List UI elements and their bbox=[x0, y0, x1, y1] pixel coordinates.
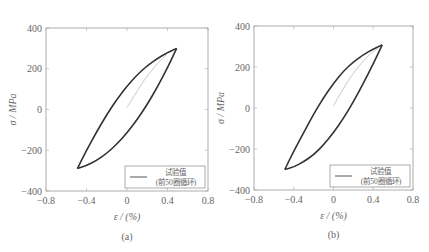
x-tick-label: 0.4 bbox=[367, 194, 380, 205]
panel-caption: (a) bbox=[121, 231, 132, 243]
hysteresis-loop-lower-line bbox=[285, 45, 382, 170]
y-axis-label: σ / MPa bbox=[7, 93, 18, 125]
x-tick-label: 0 bbox=[125, 195, 130, 206]
x-axis-label: ε / (%) bbox=[320, 210, 347, 222]
x-axis-label: ε / (%) bbox=[114, 211, 141, 223]
x-tick-label: 0.8 bbox=[202, 195, 215, 206]
panel-caption: (b) bbox=[328, 229, 340, 241]
x-tick-label: −0.8 bbox=[37, 195, 55, 206]
y-tick-label: 200 bbox=[27, 63, 42, 74]
legend-entry-label: 试验值 bbox=[165, 167, 187, 177]
legend-entry-sublabel: (前50圈循环) bbox=[361, 176, 402, 186]
y-tick-label: 0 bbox=[245, 103, 250, 114]
x-tick-label: −0.4 bbox=[77, 195, 95, 206]
y-tick-label: −200 bbox=[21, 145, 42, 156]
hysteresis-loop-lower-line bbox=[77, 48, 176, 168]
hysteresis-loop-upper-line bbox=[77, 48, 176, 168]
y-tick-label: 400 bbox=[235, 21, 250, 32]
x-tick-label: −0.4 bbox=[285, 194, 303, 205]
x-tick-label: 0.8 bbox=[407, 194, 420, 205]
y-tick-label: 0 bbox=[37, 104, 42, 115]
legend-entry-sublabel: (前50圈循环) bbox=[156, 177, 197, 187]
x-tick-label: 0 bbox=[331, 194, 336, 205]
chart-a: 4002000−200−400−0.8−0.400.40.8ε / (%)σ /… bbox=[7, 23, 214, 244]
x-tick-label: 0.4 bbox=[161, 195, 174, 206]
x-tick-label: −0.8 bbox=[245, 194, 263, 205]
chart-b: 4002000−200−400−0.8−0.400.40.8ε / (%)σ /… bbox=[215, 21, 419, 242]
chart-panel-a: 4002000−200−400−0.8−0.400.40.8ε / (%)σ /… bbox=[0, 0, 429, 252]
legend-entry-label: 试验值 bbox=[370, 166, 392, 176]
y-tick-label: 200 bbox=[235, 62, 250, 73]
hysteresis-loop-upper-line bbox=[285, 45, 382, 170]
y-tick-label: −200 bbox=[229, 144, 250, 155]
y-tick-label: 400 bbox=[27, 23, 42, 34]
y-axis-label: σ / MPa bbox=[215, 92, 226, 124]
